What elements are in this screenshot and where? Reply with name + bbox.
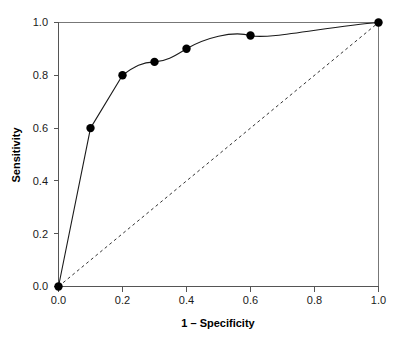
roc-point-4 (182, 45, 190, 53)
roc-point-1 (86, 124, 94, 132)
y-tick-label-1.0: 1.0 (33, 16, 48, 28)
x-axis-title: 1 – Specificity (181, 317, 255, 329)
y-tick-label-0.2: 0.2 (33, 228, 48, 240)
roc-point-2 (118, 71, 126, 79)
roc-point-3 (150, 58, 158, 66)
roc-point-5 (246, 31, 254, 39)
x-tick-label-0.6: 0.6 (243, 294, 258, 306)
x-tick-label-0.8: 0.8 (307, 294, 322, 306)
x-tick-label-0.0: 0.0 (51, 294, 66, 306)
y-axis-title: Sensitivity (10, 127, 22, 183)
y-tick-label-0.6: 0.6 (33, 122, 48, 134)
roc-point-6 (374, 18, 382, 26)
roc-chart-figure: 1.0 0.8 0.6 0.4 0.2 0.0 0.0 0.2 0.4 0.6 … (0, 0, 400, 338)
y-tick-label-0.0: 0.0 (33, 280, 48, 292)
x-tick-label-0.2: 0.2 (115, 294, 130, 306)
x-tick-label-0.4: 0.4 (179, 294, 194, 306)
y-tick-label-0.8: 0.8 (33, 69, 48, 81)
chance-diagonal-line (59, 23, 379, 287)
x-axis: 0.0 0.2 0.4 0.6 0.8 1.0 (51, 287, 386, 307)
roc-point-0 (54, 282, 62, 290)
y-axis: 1.0 0.8 0.6 0.4 0.2 0.0 (33, 16, 59, 292)
roc-plot-svg: 1.0 0.8 0.6 0.4 0.2 0.0 0.0 0.2 0.4 0.6 … (0, 0, 400, 338)
x-tick-label-1.0: 1.0 (371, 294, 386, 306)
y-tick-label-0.4: 0.4 (33, 175, 48, 187)
